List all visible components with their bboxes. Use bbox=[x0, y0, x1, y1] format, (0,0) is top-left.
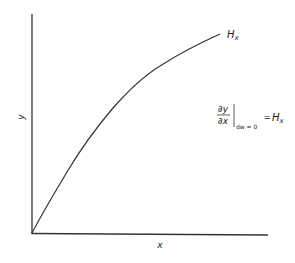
derivative-equation: ∂y ∂x dw = 0 = Hx bbox=[217, 104, 285, 130]
eq-numerator: ∂y bbox=[218, 104, 229, 114]
eq-condition: dw = 0 bbox=[236, 123, 258, 130]
curve-hx bbox=[32, 34, 220, 233]
chart: Hx x y ∂y ∂x dw = 0 = Hx bbox=[0, 0, 295, 263]
x-axis bbox=[32, 234, 269, 236]
curve-label: Hx bbox=[227, 29, 240, 42]
y-axis-label: y bbox=[16, 114, 26, 121]
eq-equals: = bbox=[264, 113, 271, 122]
eq-rhs: Hx bbox=[272, 112, 285, 125]
eq-denominator: ∂x bbox=[218, 116, 229, 126]
x-axis-label: x bbox=[156, 240, 163, 250]
